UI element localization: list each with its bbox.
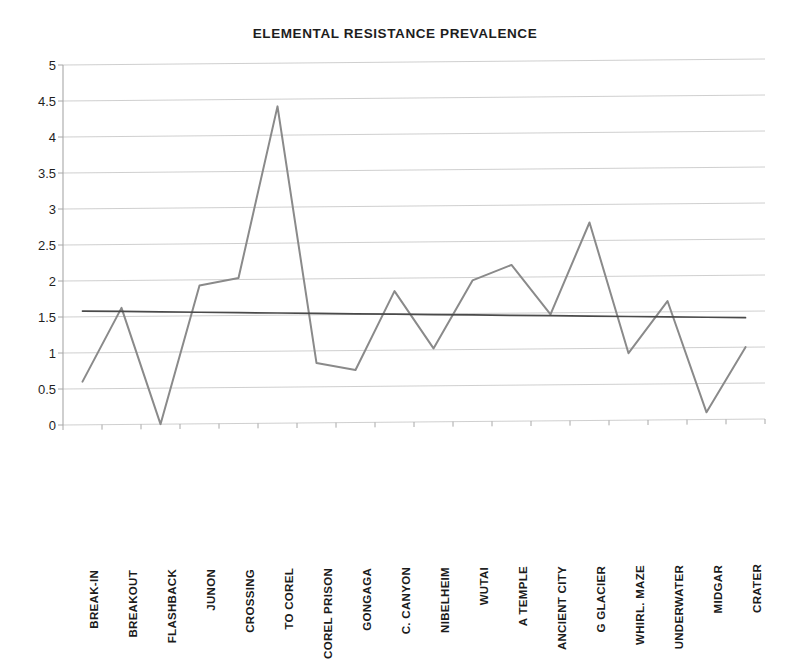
y-axis: 54.543.532.521.510.50 xyxy=(0,0,56,578)
chart-title: ELEMENTAL RESISTANCE PREVALENCE xyxy=(0,26,790,41)
x-axis-tick-label: C. CANYON xyxy=(400,567,412,663)
x-axis-tick-label: CRATER xyxy=(751,564,763,663)
y-axis-tick-label: 3.5 xyxy=(4,166,56,181)
y-axis-tick-label: 4.5 xyxy=(4,94,56,109)
y-axis-tick-label: 4 xyxy=(4,130,56,145)
x-axis: BREAK-INBREAKOUTFLASHBACKJUNONCROSSINGTO… xyxy=(63,432,765,578)
x-axis-tick-label: G GLACIER xyxy=(595,566,607,663)
x-axis-tick-label: ANCIENT CITY xyxy=(556,566,568,663)
y-axis-tick-label: 5 xyxy=(4,58,56,73)
x-axis-tick-label: A TEMPLE xyxy=(517,566,529,663)
y-axis-tick-label: 2 xyxy=(4,274,56,289)
y-axis-tick-label: 2.5 xyxy=(4,238,56,253)
y-axis-tick-label: 0 xyxy=(4,418,56,433)
x-axis-tick-label: JUNON xyxy=(205,569,217,663)
x-axis-tick-label: BREAKOUT xyxy=(127,570,139,663)
x-axis-tick-label: BREAK-IN xyxy=(88,570,100,663)
x-axis-tick-label: NIBELHEIM xyxy=(439,567,451,663)
y-axis-tick-label: 1.5 xyxy=(4,310,56,325)
x-axis-tick-label: GONGAGA xyxy=(361,568,373,663)
x-axis-tick-label: MIDGAR xyxy=(712,565,724,663)
y-axis-tick-label: 3 xyxy=(4,202,56,217)
plot-area xyxy=(63,65,765,425)
x-axis-tick-label: COREL PRISON xyxy=(322,568,334,663)
x-axis-tick-label: FLASHBACK xyxy=(166,569,178,663)
x-axis-tick-label: CROSSING xyxy=(244,569,256,663)
x-axis-tick-label: UNDERWATER xyxy=(673,565,685,663)
x-axis-tick-label: WHIRL. MAZE xyxy=(634,565,646,663)
x-axis-tick-label: WUTAI xyxy=(478,567,490,663)
y-axis-tick-label: 1 xyxy=(4,346,56,361)
x-axis-tick-label: TO COREL xyxy=(283,568,295,663)
y-axis-tick-label: 0.5 xyxy=(4,382,56,397)
